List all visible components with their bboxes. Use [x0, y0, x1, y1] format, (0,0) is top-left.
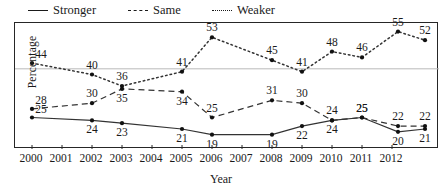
data-label: 24: [79, 123, 105, 135]
data-point: [360, 115, 364, 119]
data-label: 53: [199, 21, 225, 33]
data-point: [30, 115, 34, 119]
data-label: 31: [259, 84, 285, 96]
x-tick-label: 2007: [224, 152, 258, 164]
data-label: 25: [349, 102, 375, 114]
data-label: 22: [289, 129, 315, 141]
x-tick-label: 2005: [164, 152, 198, 164]
x-tick-label: 2008: [254, 152, 288, 164]
data-label: 41: [169, 56, 195, 68]
legend-item-weaker[interactable]: Weaker: [212, 4, 275, 17]
x-tick-label: 2001: [44, 152, 78, 164]
x-tick-label: 2006: [194, 152, 228, 164]
data-label: 45: [259, 44, 285, 56]
x-axis-tick-labels: 2000200120022003200420052006200720082009…: [14, 152, 438, 168]
data-label: 36: [109, 70, 135, 82]
data-label: 41: [289, 56, 315, 68]
x-tick-label: 2003: [104, 152, 138, 164]
data-point: [180, 127, 184, 131]
data-label: 30: [79, 87, 105, 99]
data-point: [300, 70, 304, 74]
chart-legend: Stronger Same Weaker: [0, 2, 442, 22]
data-label: 24: [319, 104, 345, 116]
data-point: [423, 38, 427, 42]
plot-area: 2524232119192224252021283035342531302425…: [14, 22, 438, 148]
data-point: [210, 133, 214, 137]
legend-item-same[interactable]: Same: [128, 4, 181, 17]
data-point: [210, 35, 214, 39]
data-label: 22: [385, 110, 411, 122]
x-axis-title: Year: [0, 172, 442, 187]
data-point: [396, 30, 400, 34]
data-label: 40: [79, 59, 105, 71]
data-point: [360, 55, 364, 59]
data-point: [300, 124, 304, 128]
data-point: [210, 115, 214, 119]
data-label: 24: [319, 123, 345, 135]
data-label: 52: [412, 24, 438, 36]
data-label: 30: [289, 87, 315, 99]
data-point: [396, 124, 400, 128]
y-axis-title: Percentage: [26, 22, 38, 102]
x-tick-label: 2000: [14, 152, 48, 164]
data-point: [423, 124, 427, 128]
x-tick-label: 2009: [284, 152, 318, 164]
data-label: 34: [169, 95, 195, 107]
data-label: 19: [259, 138, 285, 150]
x-tick-label: 2012: [374, 152, 408, 164]
x-tick-label: 2002: [74, 152, 108, 164]
data-point: [180, 90, 184, 94]
data-point: [90, 118, 94, 122]
data-label: 55: [385, 16, 411, 28]
data-label: 35: [109, 92, 135, 104]
line-chart: Stronger Same Weaker 2524232119192224252…: [0, 0, 442, 194]
data-point: [330, 118, 334, 122]
data-label: 20: [385, 135, 411, 147]
data-label: 48: [319, 36, 345, 48]
data-point: [300, 101, 304, 105]
line-solid-icon: [28, 6, 48, 14]
data-label: 19: [199, 138, 225, 150]
line-dotted-icon: [212, 6, 232, 14]
data-point: [180, 70, 184, 74]
data-label: 21: [412, 132, 438, 144]
x-tick-label: 2010: [314, 152, 348, 164]
data-label: 46: [349, 41, 375, 53]
data-label: 25: [199, 102, 225, 114]
data-point: [270, 58, 274, 62]
data-point: [120, 84, 124, 88]
legend-label-weaker: Weaker: [237, 4, 275, 17]
data-point: [90, 101, 94, 105]
x-tick-label: 2004: [134, 152, 168, 164]
x-tick-label: 2011: [344, 152, 378, 164]
legend-item-stronger[interactable]: Stronger: [28, 4, 96, 17]
data-point: [120, 121, 124, 125]
data-label: 21: [169, 132, 195, 144]
data-point: [270, 98, 274, 102]
data-label: 23: [109, 126, 135, 138]
data-point: [330, 50, 334, 54]
legend-label-stronger: Stronger: [53, 4, 96, 17]
data-point: [270, 133, 274, 137]
data-point: [90, 72, 94, 76]
data-label: 22: [412, 110, 438, 122]
data-point: [396, 130, 400, 134]
legend-label-same: Same: [153, 4, 181, 17]
line-dashed-icon: [128, 6, 148, 14]
